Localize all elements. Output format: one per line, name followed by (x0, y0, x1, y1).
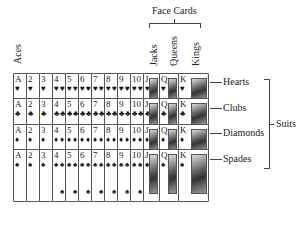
suit-icon: ♣ (93, 110, 98, 118)
card-rank: 7 (93, 151, 98, 160)
card: J♠ (143, 149, 160, 202)
card: 6♥♥ (78, 73, 92, 100)
card: K♠ (178, 149, 209, 202)
suit-icon: ♦ (86, 136, 90, 144)
suit-icon: ♠ (54, 161, 58, 169)
card-rank: K (180, 126, 187, 135)
card-rank: K (180, 100, 187, 109)
suit-icon: ♣ (180, 110, 185, 118)
card: 10♣♣ (130, 98, 144, 125)
queens-label: Queens (168, 36, 179, 66)
card-rank: 5 (67, 151, 72, 160)
card-rank: 10 (132, 100, 141, 109)
card: 2♠ (26, 149, 40, 202)
card: 5♥♥ (65, 73, 79, 100)
card: 2♣ (26, 98, 40, 125)
card: 2♥ (26, 73, 40, 100)
suit-icon: ♠ (80, 161, 84, 169)
card-rank: 3 (41, 126, 46, 135)
suit-icon: ♠ (132, 161, 136, 169)
card: 4♥♥ (52, 73, 66, 100)
suit-icon: ♠ (86, 188, 90, 196)
suit-icon: ♦ (161, 136, 165, 144)
suit-icon: ♦ (138, 136, 142, 144)
suit-icon: ♣ (80, 110, 85, 118)
card-rank: 5 (67, 100, 72, 109)
card-rank: 4 (54, 151, 59, 160)
face-card-portrait-icon (191, 154, 207, 194)
face-card-portrait-icon (149, 129, 158, 151)
card-rank: Q (161, 75, 168, 84)
suit-icon: ♦ (73, 136, 77, 144)
card-rank: Q (161, 100, 168, 109)
card: K♣ (178, 98, 209, 125)
suit-icon: ♦ (28, 136, 32, 144)
card-rank: 2 (28, 75, 33, 84)
card-rank: 5 (67, 126, 72, 135)
card: A♦ (13, 124, 27, 151)
suit-icon: ♣ (15, 110, 20, 118)
card-rank: Q (161, 151, 168, 160)
suit-icon: ♥ (119, 85, 124, 93)
card-rank: K (180, 151, 187, 160)
card: 9♥♥ (117, 73, 131, 100)
card-rank: 5 (67, 75, 72, 84)
card: 7♣♣ (91, 98, 105, 125)
card: K♦ (178, 124, 209, 151)
suit-icon: ♠ (73, 161, 77, 169)
card-rank: J (145, 126, 149, 135)
card: 3♣ (39, 98, 53, 125)
card: 4♦♦ (52, 124, 66, 151)
card-rank: 7 (93, 100, 98, 109)
card: 7♥♥ (91, 73, 105, 100)
suit-label-diamonds: Diamonds (223, 127, 264, 138)
card: A♥ (13, 73, 27, 100)
card-rank: A (15, 151, 22, 160)
card-rank: 8 (106, 151, 111, 160)
card-rank: 7 (93, 75, 98, 84)
suit-icon: ♠ (138, 161, 142, 169)
suit-icon: ♠ (112, 188, 116, 196)
card-rank: 2 (28, 126, 33, 135)
face-card-portrait-icon (149, 78, 158, 100)
card: Q♦ (159, 124, 179, 151)
face-card-portrait-icon (168, 78, 177, 100)
suit-icon: ♥ (93, 85, 98, 93)
card: 10♥♥ (130, 73, 144, 100)
card: 10♠♠♠ (130, 149, 144, 202)
suit-icon: ♠ (125, 188, 129, 196)
suit-icon: ♠ (138, 188, 142, 196)
suit-icon: ♠ (86, 161, 90, 169)
suit-icon: ♦ (15, 136, 19, 144)
card-rank: J (145, 151, 149, 160)
card: 6♣♣ (78, 98, 92, 125)
card-rank: 2 (28, 100, 33, 109)
card: 8♦♦ (104, 124, 118, 151)
card: 5♦♦ (65, 124, 79, 151)
card-rank: 3 (41, 151, 46, 160)
card: 8♠♠♠ (104, 149, 118, 202)
aces-label: Aces (12, 44, 23, 64)
suit-icon: ♠ (15, 161, 19, 169)
card: 8♥♥ (104, 73, 118, 100)
suit-icon: ♥ (106, 85, 111, 93)
card-rank: 4 (54, 75, 59, 84)
card: 9♦♦ (117, 124, 131, 151)
card: 3♠ (39, 149, 53, 202)
card-rank: 8 (106, 75, 111, 84)
card: 5♠♠♠ (65, 149, 79, 202)
suit-icon: ♠ (119, 161, 123, 169)
card-rank: 10 (132, 151, 141, 160)
suit-icon: ♦ (80, 136, 84, 144)
suit-icon: ♠ (41, 161, 45, 169)
card-rank: 9 (119, 75, 124, 84)
suit-icon: ♥ (54, 85, 59, 93)
suit-icon: ♦ (132, 136, 136, 144)
suits-label: Suits (276, 118, 296, 129)
card: 4♣♣ (52, 98, 66, 125)
suit-icon: ♠ (99, 188, 103, 196)
face-card-portrait-icon (149, 154, 158, 194)
card: 3♦ (39, 124, 53, 151)
suit-icon: ♣ (54, 110, 59, 118)
card: 8♣♣ (104, 98, 118, 125)
